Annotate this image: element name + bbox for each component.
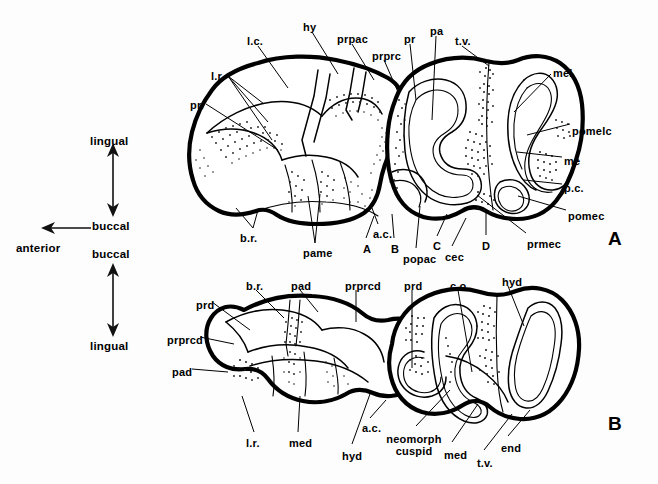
panel-a-leader-lines [206, 32, 570, 248]
label-a-cec: cec [445, 252, 464, 263]
label-b-co: c.o. [450, 281, 470, 292]
panel-b-left-crest-2 [226, 322, 248, 352]
panel-a-right-metaloph-loop-inner [525, 84, 552, 193]
panel-b-transverse-valley [496, 296, 503, 412]
panel-b-left-notch-2 [296, 300, 300, 346]
panel-a-left-cingulum-line [255, 201, 378, 216]
label-a-marker-a: A [363, 244, 371, 255]
label-a-pr-left: pr. [190, 100, 204, 111]
label-a-prpac: prpac [337, 34, 368, 45]
label-b-hyd-bottom: hyd [342, 451, 362, 462]
upper-vertical-arrow [107, 143, 119, 217]
label-b-lr: l.r. [246, 438, 260, 449]
label-b-prprcd-left: prprcd [167, 335, 203, 346]
label-a-mel: mel [553, 68, 573, 79]
label-a-pr: pr [404, 34, 415, 45]
label-b-prd-top: prd [404, 281, 422, 292]
label-a-pa: pa [430, 26, 443, 37]
label-a-lr: l.r. [211, 71, 225, 82]
label-b-ac: a.c. [362, 423, 381, 434]
label-b-pad-top: pad [291, 281, 311, 292]
label-a-pc: p.c. [564, 183, 584, 194]
label-a-pomelc: pomelc [572, 126, 612, 137]
orientation-arrows [41, 143, 119, 337]
panel-b-left-notch-1 [286, 300, 290, 356]
label-b-med-right: med [444, 450, 467, 461]
panel-a-right-metaloph-loop-2 [508, 80, 536, 190]
label-b-br: b.r. [246, 281, 263, 292]
panel-b-left-tooth-outline [206, 296, 430, 403]
panel-a-right-anterior-cingulum [392, 170, 427, 202]
label-a-hy: hy [303, 22, 316, 33]
panel-label-b: B [608, 418, 622, 429]
anterior-horizontal-arrow [41, 222, 91, 234]
lower-vertical-arrow [107, 263, 119, 337]
panel-b-right-left-lobe [398, 351, 446, 397]
panel-a-right-post-cingulum [494, 180, 529, 214]
label-a-marker-c: C [433, 241, 441, 252]
panel-a-left-valley-notch-2 [314, 74, 330, 142]
panel-a-right-tooth-outline [387, 56, 583, 219]
panel-b-left-basin-line-1 [272, 356, 274, 396]
label-a-br: b.r. [240, 233, 257, 244]
label-a-lc: l.c. [247, 36, 263, 47]
label-a-tv: t.v. [455, 36, 471, 47]
panel-a-right-metaloph-loop-inner-2 [514, 88, 527, 169]
orientation-lower-top-label: buccal [92, 249, 130, 260]
label-b-neomorph-cuspid: neomorph cuspid [383, 433, 445, 457]
panel-a-left-inner-crest-1 [207, 102, 322, 133]
panel-b-left-basin-line-3 [334, 358, 338, 394]
label-b-med-left: med [289, 438, 312, 449]
panel-b-right-right-lobe [508, 302, 562, 408]
label-b-tv: t.v. [477, 458, 493, 469]
panel-a-right-anterior-cingulum-2 [390, 180, 421, 207]
panel-b-left-basin-line-2 [304, 352, 306, 396]
label-a-popac: popac [403, 254, 436, 265]
label-a-marker-b: B [391, 244, 399, 255]
panel-a-stipple-shading [195, 67, 571, 213]
orientation-upper-bottom-label: buccal [92, 221, 130, 232]
label-b-hyd-top: hyd [502, 277, 522, 288]
label-a-pomec: pomec [568, 211, 604, 222]
orientation-anterior-label: anterior [16, 243, 60, 254]
label-a-ac: a.c. [373, 229, 392, 240]
label-a-prmec: prmec [527, 239, 561, 250]
panel-b-left-cingulid [250, 360, 368, 382]
panel-a-left-valley-notch-1 [302, 70, 318, 156]
panel-b-right-right-lobe-inner [514, 312, 555, 402]
panel-a-right-metaloph-loop [524, 73, 570, 190]
panel-b-leader-lines [192, 286, 530, 450]
panel-a-left-basin-2 [312, 160, 320, 212]
panel-b-artwork [192, 286, 579, 450]
panel-a-left-valley-notch-4 [358, 72, 366, 112]
label-b-end: end [501, 443, 521, 454]
label-b-pad-left: pad [172, 367, 192, 378]
panel-a-artwork [189, 32, 583, 248]
orientation-upper-top-label: lingual [90, 136, 128, 147]
panel-a-left-basin-1 [285, 165, 292, 212]
label-b-prprcd-top: prprcd [345, 281, 381, 292]
label-a-pame: pame [303, 248, 333, 259]
panel-b-right-tooth-outline [389, 288, 579, 419]
panel-a-right-protocone-loop-inner [409, 90, 473, 197]
panel-b-cristid-obliqua [446, 356, 508, 402]
panel-a-left-inner-crest-3 [282, 155, 358, 177]
panel-b-left-crest-3 [248, 345, 348, 368]
panel-a-left-basin-3 [340, 162, 350, 210]
panel-b-right-keyhole-outer [432, 305, 488, 423]
panel-b-right-keyhole-inner [438, 313, 481, 417]
panel-label-a: A [608, 233, 622, 244]
label-b-prd-left: prd [196, 300, 214, 311]
panel-a-right-post-cingulum-inner [498, 186, 524, 211]
panel-b-stipple-shading [233, 305, 500, 387]
panel-a-left-inner-crest-4 [322, 98, 382, 116]
panel-b-right-left-lobe-inner [404, 357, 441, 393]
label-a-me: me [564, 156, 580, 167]
orientation-lower-bottom-label: lingual [90, 341, 128, 352]
dental-morphology-figure: lingual buccal anterior buccal lingual l… [0, 0, 658, 484]
label-a-prprc: prprc [372, 51, 401, 62]
panel-a-left-valley-notch-3 [346, 68, 354, 120]
panel-a-right-protocone-loop [404, 79, 481, 205]
label-a-marker-d: D [482, 241, 490, 252]
panel-b-left-crest-1 [226, 310, 322, 330]
